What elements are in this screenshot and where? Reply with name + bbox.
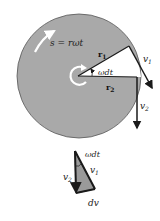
triangle-v2-side — [75, 151, 76, 192]
v2-label: v2 — [140, 101, 149, 112]
triangle-v1-label: v1 — [90, 165, 99, 176]
velocity-diagram: s = rωt r1 ωdt r2 v1 v2 ωdt v1 v2 dv — [0, 0, 160, 221]
angle-label: ωdt — [98, 68, 114, 77]
triangle-v2-label: v2 — [63, 172, 72, 183]
arc-length-label: s = rωt — [50, 38, 84, 48]
triangle-angle-label: ωdt — [85, 150, 101, 159]
v1-label: v1 — [143, 54, 152, 65]
triangle-dv-label: dv — [88, 198, 99, 208]
